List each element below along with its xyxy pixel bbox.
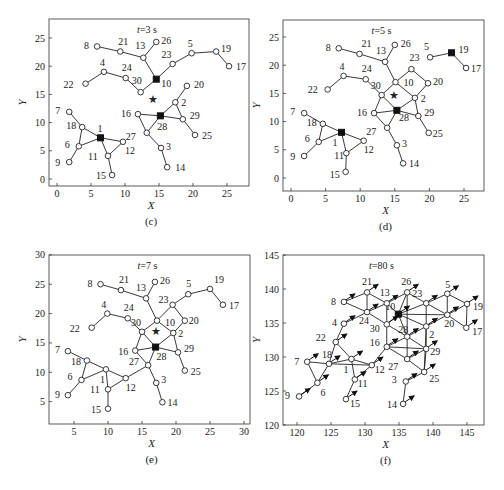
node-label: 15 bbox=[91, 404, 101, 415]
node-icon bbox=[117, 49, 123, 55]
edge bbox=[188, 289, 210, 294]
node-label: 4 bbox=[332, 317, 337, 328]
node-icon bbox=[118, 287, 124, 293]
node-icon bbox=[170, 330, 176, 336]
node-icon bbox=[392, 42, 398, 48]
edge bbox=[146, 298, 157, 320]
panel-caption: (c) bbox=[145, 215, 158, 228]
x-axis-label: X bbox=[147, 199, 156, 211]
node-label: 15 bbox=[96, 170, 106, 181]
node-icon bbox=[404, 290, 410, 296]
node-icon bbox=[393, 79, 399, 85]
node-label: 16 bbox=[357, 107, 367, 118]
leader-node-icon bbox=[395, 311, 401, 317]
y-tick-label: 145 bbox=[264, 250, 279, 261]
target-star-icon: ★ bbox=[389, 89, 399, 101]
node-label: 14 bbox=[175, 162, 185, 173]
x-tick-label: 0 bbox=[289, 193, 294, 204]
node-label: 25 bbox=[433, 128, 443, 139]
node-label: 24 bbox=[122, 62, 132, 73]
y-tick-label: 120 bbox=[264, 420, 279, 431]
node-label: 2 bbox=[178, 328, 183, 339]
node-icon bbox=[421, 369, 427, 375]
node-label: 17 bbox=[229, 300, 239, 311]
node-icon bbox=[404, 334, 410, 340]
node-label: 9 bbox=[55, 389, 60, 400]
node-label: 11 bbox=[358, 378, 368, 389]
node-label: 8 bbox=[88, 278, 93, 289]
node-icon bbox=[343, 169, 349, 175]
node-label: 29 bbox=[430, 346, 440, 357]
node-icon bbox=[109, 172, 115, 178]
x-tick-label: 125 bbox=[324, 427, 339, 438]
node-label: 26 bbox=[161, 35, 171, 46]
figure: 05101520250510152025XY(c)t=3 s★123456789… bbox=[0, 0, 504, 490]
node-label: 13 bbox=[376, 45, 386, 56]
node-label: 18 bbox=[307, 117, 317, 128]
x-tick-label: 130 bbox=[358, 427, 373, 438]
node-label: 7 bbox=[55, 105, 60, 116]
edge bbox=[86, 72, 104, 84]
edge bbox=[317, 364, 329, 383]
node-label: 26 bbox=[160, 275, 170, 286]
y-tick-label: 135 bbox=[264, 318, 279, 329]
node-label: 6 bbox=[65, 139, 70, 150]
node-label: 22 bbox=[64, 79, 74, 90]
node-label: 20 bbox=[194, 79, 204, 90]
node-label: 14 bbox=[167, 397, 177, 408]
node-icon bbox=[444, 291, 450, 297]
y-tick-label: 140 bbox=[264, 284, 279, 295]
node-icon bbox=[384, 300, 390, 306]
node-label: 25 bbox=[191, 366, 201, 377]
edge bbox=[426, 303, 447, 315]
edge bbox=[344, 302, 367, 312]
node-icon bbox=[145, 362, 151, 368]
y-tick-label: 25 bbox=[269, 32, 279, 43]
node-label: 6 bbox=[67, 371, 72, 382]
y-tick-label: 25 bbox=[35, 279, 45, 290]
node-label: 3 bbox=[166, 141, 171, 152]
x-axis-label: X bbox=[147, 437, 156, 449]
node-icon bbox=[79, 124, 85, 130]
x-tick-label: 15 bbox=[154, 188, 164, 199]
y-tick-label: 0 bbox=[274, 173, 279, 184]
panel-e: 5101520253051015202530XY(e)t=7 s★1234567… bbox=[16, 249, 250, 466]
panel-caption: (e) bbox=[145, 453, 158, 466]
node-icon bbox=[152, 279, 158, 285]
edge bbox=[387, 347, 407, 359]
node-icon bbox=[464, 325, 470, 331]
node-label: 9 bbox=[290, 151, 295, 162]
y-tick-label: 25 bbox=[35, 33, 45, 44]
node-icon bbox=[125, 315, 131, 321]
node-icon bbox=[207, 286, 213, 292]
y-tick-label: 30 bbox=[35, 249, 45, 260]
node-label: 4 bbox=[340, 61, 345, 72]
node-label: 30 bbox=[370, 323, 380, 334]
node-label: 5 bbox=[445, 279, 450, 290]
x-tick-label: 30 bbox=[239, 426, 249, 437]
node-icon bbox=[412, 95, 418, 101]
node-label: 13 bbox=[380, 287, 390, 298]
node-label: 23 bbox=[162, 49, 172, 60]
node-icon bbox=[226, 63, 232, 69]
node-icon bbox=[213, 49, 219, 55]
node-label: 12 bbox=[125, 145, 135, 156]
y-tick-label: 130 bbox=[264, 352, 279, 363]
node-label: 27 bbox=[126, 131, 136, 142]
velocity-arrow-icon bbox=[374, 357, 383, 363]
node-label: 28 bbox=[398, 324, 408, 335]
x-tick-label: 25 bbox=[459, 193, 469, 204]
x-tick-label: 5 bbox=[72, 426, 77, 437]
axes-frame bbox=[283, 255, 484, 425]
node-label: 6 bbox=[320, 387, 325, 398]
node-icon bbox=[192, 132, 198, 138]
node-icon bbox=[423, 324, 429, 330]
node-label: 24 bbox=[124, 302, 134, 313]
node-icon bbox=[160, 399, 166, 405]
x-tick-label: 140 bbox=[426, 427, 441, 438]
figure-svg: 05101520250510152025XY(c)t=3 s★123456789… bbox=[0, 0, 504, 490]
node-icon bbox=[182, 318, 188, 324]
velocity-arrow-icon bbox=[449, 286, 458, 292]
edge bbox=[466, 304, 467, 328]
edge bbox=[192, 52, 216, 54]
